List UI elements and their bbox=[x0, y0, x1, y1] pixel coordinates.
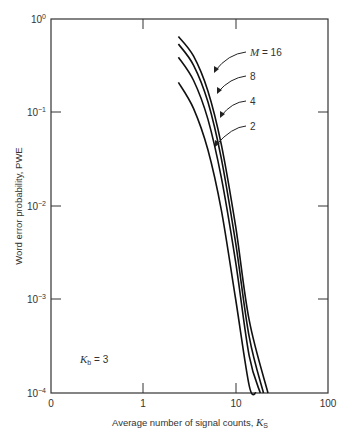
svg-text:10: 10 bbox=[230, 398, 242, 409]
label-m2: 2 bbox=[250, 121, 256, 132]
y-ticks-right bbox=[318, 112, 328, 299]
label-m16: M = 16 bbox=[249, 46, 282, 58]
arrow-m8 bbox=[218, 76, 246, 92]
svg-text:1: 1 bbox=[140, 398, 146, 409]
y-tick-labels: 100 10−1 10−2 10−3 10−4 bbox=[27, 13, 46, 399]
x-ticks-bottom bbox=[143, 383, 236, 393]
x-axis-label: Average number of signal counts, KS bbox=[112, 416, 268, 429]
label-m8: 8 bbox=[250, 71, 256, 82]
svg-text:100: 100 bbox=[320, 398, 337, 409]
curves bbox=[178, 37, 268, 395]
svg-text:10−1: 10−1 bbox=[27, 106, 46, 118]
svg-text:0: 0 bbox=[48, 398, 54, 409]
curve-m4 bbox=[178, 57, 260, 393]
svg-text:10−2: 10−2 bbox=[27, 200, 46, 212]
y-ticks-left bbox=[51, 112, 61, 299]
y-axis-label: Word error probability, PWE bbox=[13, 147, 24, 264]
svg-text:100: 100 bbox=[31, 13, 46, 25]
kb-annotation: Kb = 3 bbox=[79, 353, 109, 366]
arrow-m4 bbox=[221, 101, 246, 116]
arrow-m16 bbox=[215, 52, 246, 71]
plot-frame bbox=[51, 19, 328, 393]
label-m4: 4 bbox=[250, 96, 256, 107]
x-ticks-top bbox=[143, 19, 236, 29]
series-annotations bbox=[215, 52, 246, 145]
x-tick-labels: 0 1 10 100 bbox=[48, 398, 337, 409]
curve-m16 bbox=[178, 37, 268, 394]
chart-svg: 100 10−1 10−2 10−3 10−4 0 1 10 100 Avera… bbox=[0, 0, 351, 435]
svg-text:10−4: 10−4 bbox=[27, 387, 46, 399]
svg-text:10−3: 10−3 bbox=[27, 293, 46, 305]
